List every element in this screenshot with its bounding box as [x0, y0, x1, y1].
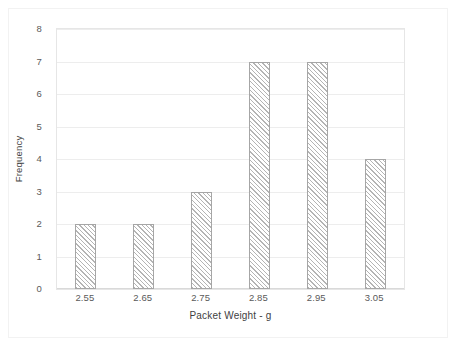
x-tick-label: 2.55	[75, 292, 94, 303]
x-axis-title: Packet Weight - g	[56, 310, 405, 321]
gridline-4	[57, 159, 404, 160]
bar[interactable]	[75, 224, 96, 289]
x-tick-label: 3.05	[365, 292, 384, 303]
bar[interactable]	[307, 62, 328, 290]
y-tick-label: 4	[37, 153, 42, 164]
bar[interactable]	[365, 159, 386, 289]
gridline-8	[57, 29, 404, 30]
x-tick-label: 2.95	[307, 292, 326, 303]
y-tick-label: 0	[37, 283, 42, 294]
gridline-0	[57, 288, 404, 289]
plot-area	[56, 28, 405, 290]
y-tick-label: 7	[37, 55, 42, 66]
y-tick-label: 2	[37, 218, 42, 229]
y-tick-label: 8	[37, 23, 42, 34]
x-tick-label: 2.75	[191, 292, 210, 303]
gridline-1	[57, 257, 404, 258]
bar[interactable]	[191, 192, 212, 290]
y-tick-label: 3	[37, 185, 42, 196]
gridline-3	[57, 192, 404, 193]
bar[interactable]	[133, 224, 154, 289]
gridline-7	[57, 62, 404, 63]
gridline-2	[57, 224, 404, 225]
y-tick-label: 6	[37, 88, 42, 99]
gridline-5	[57, 127, 404, 128]
histogram-chart: Frequency 012345678 2.552.652.752.852.95…	[0, 0, 456, 346]
y-axis: 012345678	[0, 28, 50, 290]
bar[interactable]	[249, 62, 270, 290]
x-axis: 2.552.652.752.852.953.05	[56, 292, 405, 308]
y-tick-label: 5	[37, 120, 42, 131]
x-tick-label: 2.65	[133, 292, 152, 303]
x-tick-label: 2.85	[249, 292, 268, 303]
gridline-6	[57, 94, 404, 95]
y-tick-label: 1	[37, 250, 42, 261]
